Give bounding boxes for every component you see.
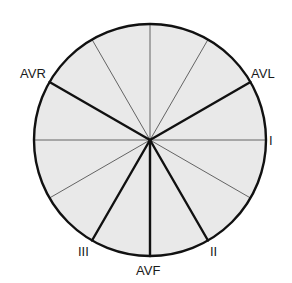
label-i: I (269, 133, 273, 148)
label-iii: III (78, 244, 89, 259)
label-ii: II (210, 244, 217, 259)
label-avf: AVF (136, 263, 160, 278)
hexaxial-diagram: AVR AVL I II III AVF (0, 0, 292, 283)
label-avr: AVR (20, 66, 46, 81)
label-avl: AVL (251, 66, 275, 81)
